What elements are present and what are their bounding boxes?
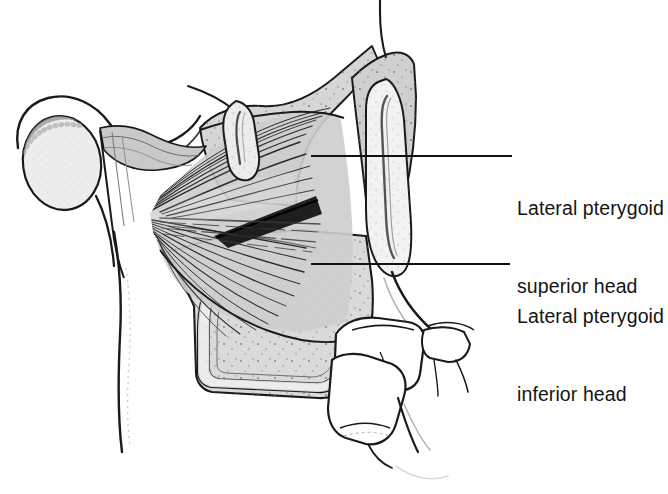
anatomy-figure: Lateral pterygoid superior head Lateral … bbox=[0, 0, 668, 494]
label-superior-line1: Lateral pterygoid bbox=[517, 195, 664, 221]
maxillary-molars bbox=[328, 318, 474, 479]
mandibular-condyle bbox=[17, 111, 114, 266]
label-inferior-line2: inferior head bbox=[517, 381, 664, 407]
label-inferior-line1: Lateral pterygoid bbox=[517, 303, 664, 329]
anterior-bone-outline bbox=[114, 232, 130, 452]
label-lateral-pterygoid-inferior-head: Lateral pterygoid inferior head bbox=[517, 251, 664, 459]
